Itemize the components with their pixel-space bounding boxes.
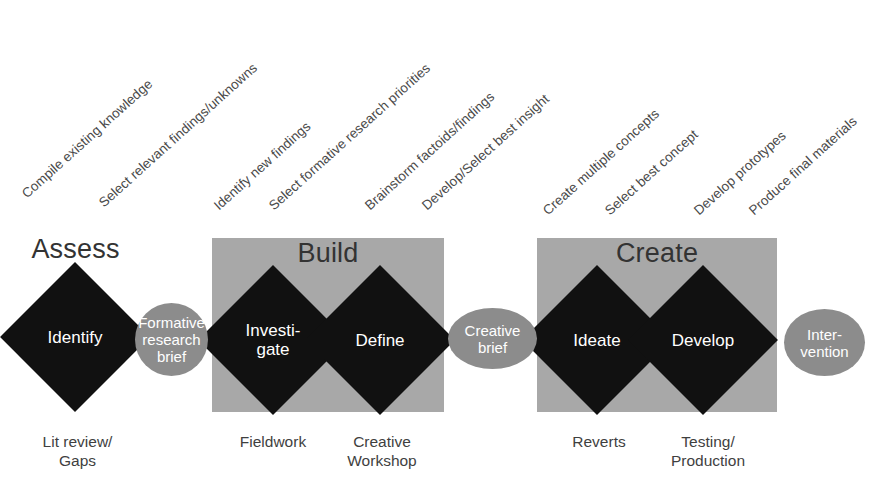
deliverable-creative-brief[interactable]: Creative brief: [448, 308, 537, 369]
phase-heading-create: Create: [597, 238, 717, 269]
phase-heading-build: Build: [268, 238, 388, 269]
caption-lit-review-gaps: Lit review/ Gaps: [20, 432, 135, 470]
diagram-canvas: Compile existing knowledge Select releva…: [0, 0, 884, 488]
caption-fieldwork: Fieldwork: [213, 432, 333, 451]
caption-testing-production: Testing/ Production: [648, 432, 768, 470]
top-label-identify-new-findings: Identify new findings: [211, 119, 314, 213]
top-label-produce-final-materials: Produce final materials: [746, 113, 860, 218]
deliverable-intervention[interactable]: Inter- vention: [784, 309, 865, 376]
caption-reverts: Reverts: [540, 432, 658, 451]
caption-creative-workshop: Creative Workshop: [322, 432, 442, 470]
deliverable-formative-research-brief[interactable]: Formative research brief: [135, 303, 208, 376]
phase-heading-assess: Assess: [18, 234, 133, 265]
top-label-develop-prototypes: Develop prototypes: [691, 128, 789, 218]
top-label-create-multiple-concepts: Create multiple concepts: [540, 106, 662, 218]
stage-diamond-identify[interactable]: [0, 262, 150, 412]
